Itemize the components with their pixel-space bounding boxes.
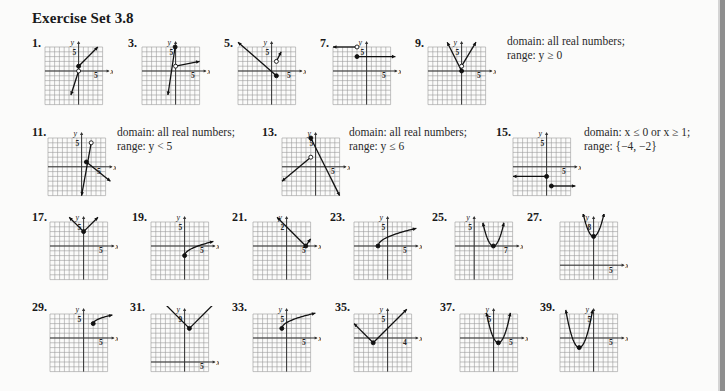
x-tick-label: 7 xyxy=(504,246,508,255)
y-tick-label: 5 xyxy=(170,48,174,57)
graph-line xyxy=(189,306,215,328)
x-tick-label: 5 xyxy=(200,246,204,255)
closed-dot-icon xyxy=(274,74,278,78)
x-tick-label: 5 xyxy=(477,71,481,80)
y-axis-label: y xyxy=(75,214,80,222)
graph-exercise-23: yx55 xyxy=(350,214,422,284)
closed-dot-icon xyxy=(545,174,549,178)
closed-dot-icon xyxy=(577,346,581,350)
exercise-number: 3. xyxy=(128,36,137,51)
x-axis-label: x xyxy=(493,67,496,76)
closed-dot-icon xyxy=(84,160,88,164)
closed-dot-icon xyxy=(549,184,553,188)
x-axis-label: x xyxy=(318,242,321,251)
y-tick-label: 5 xyxy=(382,223,386,232)
closed-dot-icon xyxy=(173,45,177,49)
x-axis-label: x xyxy=(113,163,116,172)
x-axis-label: x xyxy=(115,242,118,251)
ans-13-text: domain: all real numbers;range: y ≤ 6 xyxy=(349,125,467,153)
y-axis-label: y xyxy=(379,214,384,222)
x-tick-label: 5 xyxy=(382,71,386,80)
x-tick-label: 5 xyxy=(302,338,306,347)
y-tick-label: 5 xyxy=(281,315,285,324)
closed-dot-icon xyxy=(371,341,375,345)
graph-exercise-25: yx57 xyxy=(451,214,523,284)
page-edge xyxy=(720,0,725,391)
x-axis-label: x xyxy=(625,261,628,270)
y-tick-label: 5 xyxy=(73,48,77,57)
open-dot-icon xyxy=(77,69,81,73)
exercise-number: 5. xyxy=(224,36,233,51)
y-axis-label: y xyxy=(167,39,172,47)
ans-9-text: domain: all real numbers;range: y ≥ 0 xyxy=(507,34,625,62)
closed-dot-icon xyxy=(460,69,464,73)
graph-exercise-37: yx55 xyxy=(456,306,528,376)
y-axis-label: y xyxy=(278,306,283,314)
arrowhead-icon xyxy=(392,55,395,59)
exercise-number: 39. xyxy=(540,300,555,315)
closed-dot-icon xyxy=(304,244,308,248)
y-axis-label: y xyxy=(585,306,590,314)
y-tick-label: 5 xyxy=(179,223,183,232)
closed-dot-icon xyxy=(183,254,187,258)
y-axis-label: y xyxy=(176,214,181,222)
x-axis-label: x xyxy=(216,242,219,251)
exercise-number: 19. xyxy=(132,210,147,225)
y-tick-label: 5 xyxy=(541,139,545,148)
x-tick-label: 4 xyxy=(403,338,407,347)
y-axis-label: y xyxy=(75,306,80,314)
y-tick-label: 5 xyxy=(468,223,472,232)
graph-exercise-7: yx55 xyxy=(329,39,401,109)
x-axis-label: x xyxy=(520,242,523,251)
range-line: range: y ≤ 6 xyxy=(349,139,467,153)
domain-line: domain: all real numbers; xyxy=(507,34,625,48)
domain-line: domain: all real numbers; xyxy=(117,125,235,139)
x-axis-label: x xyxy=(419,334,422,343)
x-axis-label: x xyxy=(625,334,628,343)
x-tick-label: 5 xyxy=(331,167,335,176)
graph-exercise-15: yx55 xyxy=(509,130,581,200)
graph-exercise-27: yx85 xyxy=(556,214,628,284)
closed-dot-icon xyxy=(91,322,95,326)
open-dot-icon xyxy=(355,45,359,49)
graph-exercise-39: yx55 xyxy=(556,306,628,376)
exercise-number: 9. xyxy=(415,36,424,51)
x-axis-label: x xyxy=(115,334,118,343)
graph-exercise-1: yx55 xyxy=(41,39,113,109)
exercise-number: 29. xyxy=(32,300,47,315)
x-tick-label: 5 xyxy=(609,266,613,275)
closed-dot-icon xyxy=(376,244,380,248)
closed-dot-icon xyxy=(82,230,86,234)
y-tick-label: 5 xyxy=(361,48,365,57)
graph-line xyxy=(176,61,200,66)
exercise-number: 37. xyxy=(440,300,455,315)
closed-dot-icon xyxy=(309,136,313,140)
x-tick-label: 5 xyxy=(509,338,513,347)
range-line: range: {−4, −2} xyxy=(584,139,690,153)
y-axis-label: y xyxy=(485,306,490,314)
y-tick-label: 5 xyxy=(382,315,386,324)
graph-exercise-17: yx55 xyxy=(46,214,118,284)
graph-exercise-19: yx55 xyxy=(147,214,219,284)
x-tick-label: 5 xyxy=(99,246,103,255)
closed-dot-icon xyxy=(280,326,284,330)
page-title: Exercise Set 3.8 xyxy=(32,10,134,27)
exercise-number: 1. xyxy=(32,36,41,51)
graph-exercise-11: yx55 xyxy=(44,130,116,200)
x-tick-label: 5 xyxy=(287,71,291,80)
exercise-number: 17. xyxy=(32,210,47,225)
x-tick-label: 5 xyxy=(200,362,204,371)
open-dot-icon xyxy=(89,141,93,145)
domain-line: domain: x ≤ 0 or x ≥ 1; xyxy=(584,125,690,139)
exercise-number: 35. xyxy=(335,300,350,315)
arrowhead-icon xyxy=(572,184,575,188)
closed-dot-icon xyxy=(592,234,596,238)
x-tick-label: 5 xyxy=(609,338,613,347)
domain-line: domain: all real numbers; xyxy=(349,125,467,139)
y-axis-label: y xyxy=(176,306,181,314)
x-axis-label: x xyxy=(318,334,321,343)
x-tick-label: 5 xyxy=(562,167,566,176)
range-line: range: y ≥ 0 xyxy=(507,48,625,62)
y-tick-label: 5 xyxy=(78,315,82,324)
y-axis-label: y xyxy=(538,130,543,138)
